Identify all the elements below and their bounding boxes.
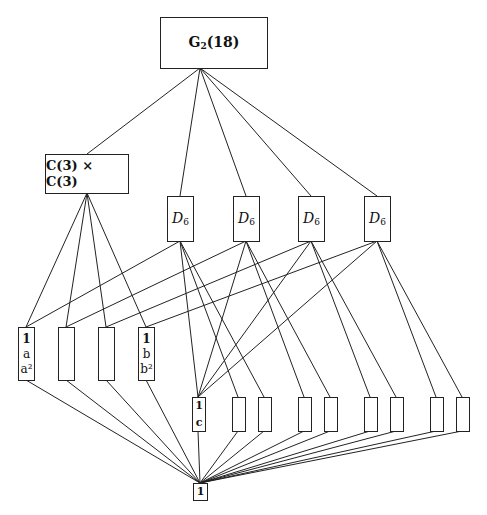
element-label: 1 — [195, 399, 203, 413]
element-label: c — [196, 416, 203, 430]
node-order3-2 — [58, 327, 75, 381]
element-label: a² — [21, 362, 33, 377]
node-g2-label: G — [189, 34, 201, 52]
element-label: a — [23, 347, 30, 362]
d6-label: D — [172, 210, 183, 228]
element-label: b² — [140, 362, 153, 377]
node-order2-6 — [364, 397, 378, 432]
node-g2-18: G2(18) — [160, 17, 268, 69]
d6-label: D — [369, 210, 380, 228]
node-order2-7 — [390, 397, 404, 432]
node-order2-4 — [298, 397, 312, 432]
d6-sub: 6 — [249, 217, 255, 227]
d6-sub: 6 — [380, 217, 386, 227]
node-order3-a: 1 a a² — [18, 327, 35, 381]
trivial-label: 1 — [197, 485, 205, 499]
node-c3xc3-label: C(3) × C(3) — [46, 158, 128, 191]
d6-label: D — [303, 210, 314, 228]
node-order2-2 — [232, 397, 246, 432]
node-order3-b: 1 b b² — [138, 327, 155, 381]
node-order3-3 — [98, 327, 115, 381]
d6-sub: 6 — [314, 217, 320, 227]
node-order2-c: 1 c — [192, 397, 206, 432]
d6-label: D — [238, 210, 249, 228]
d6-sub: 6 — [183, 217, 189, 227]
node-d6-1: D6 — [167, 196, 194, 242]
node-order2-5 — [324, 397, 338, 432]
node-g2-suffix: (18) — [207, 34, 240, 52]
element-label: 1 — [22, 332, 30, 347]
node-order2-8 — [430, 397, 444, 432]
node-order2-3 — [258, 397, 272, 432]
node-c3xc3: C(3) × C(3) — [45, 154, 129, 194]
lattice-edges — [0, 0, 487, 515]
node-d6-3: D6 — [298, 196, 325, 242]
element-label: 1 — [142, 332, 150, 347]
node-order2-9 — [456, 397, 470, 432]
element-label: b — [143, 347, 151, 362]
node-d6-4: D6 — [364, 196, 391, 242]
node-trivial: 1 — [193, 483, 208, 501]
node-d6-2: D6 — [233, 196, 260, 242]
